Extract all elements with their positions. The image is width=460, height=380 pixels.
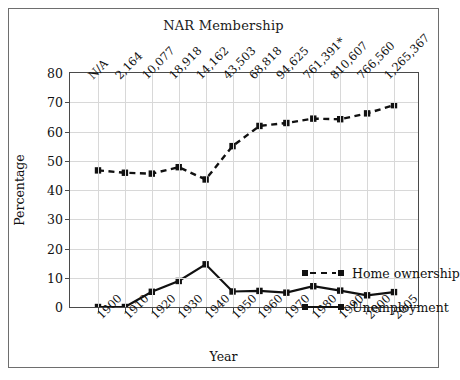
y-tick-mark <box>65 161 70 162</box>
x-axis-label: Year <box>9 349 438 364</box>
y-tick-mark <box>65 132 70 133</box>
y-tick-mark <box>65 219 70 220</box>
y-tick-label: 0 <box>55 300 70 315</box>
legend-label-home-ownership: Home ownership <box>352 266 460 281</box>
gridline-horizontal <box>70 102 418 103</box>
legend-key-dashed <box>302 268 344 278</box>
gridline-horizontal <box>70 249 418 250</box>
chart-frame: NAR Membership Percentage 01020304050607… <box>8 8 439 368</box>
legend-item-home-ownership: Home ownership <box>302 262 460 284</box>
y-axis-label: Percentage <box>12 154 27 226</box>
gridline-horizontal <box>70 190 418 191</box>
gridline-horizontal <box>70 132 418 133</box>
y-tick-mark <box>65 249 70 250</box>
series-line-home-ownership <box>98 105 394 179</box>
top-axis-title: NAR Membership <box>9 18 438 33</box>
gridline-horizontal <box>70 161 418 162</box>
plot-area: 01020304050607080 Home ownership Unemplo… <box>69 72 419 308</box>
gridline-horizontal <box>70 219 418 220</box>
y-tick-label: 80 <box>47 66 70 81</box>
y-tick-mark <box>65 278 70 279</box>
y-tick-mark <box>65 102 70 103</box>
y-tick-mark <box>65 190 70 191</box>
